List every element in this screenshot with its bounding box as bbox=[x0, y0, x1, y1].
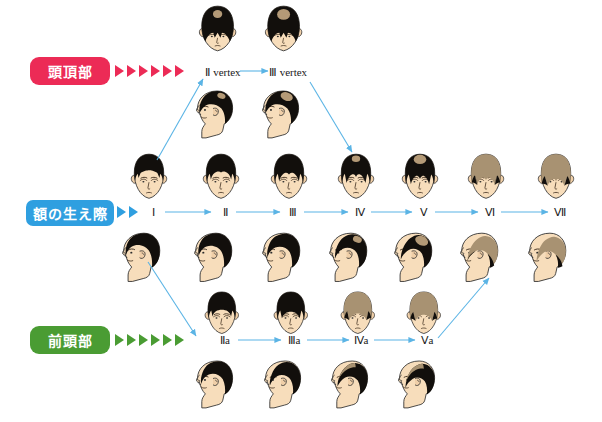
stage-label-Va: Ⅴa bbox=[421, 334, 434, 347]
head-front-VI bbox=[468, 154, 503, 198]
head-side-II bbox=[195, 233, 232, 281]
arrow-branch-I-to-IIa bbox=[148, 262, 196, 336]
stage-label-II: Ⅱ bbox=[223, 206, 228, 219]
head-side-IVa bbox=[332, 361, 368, 408]
stage-label-IVa: Ⅳa bbox=[354, 334, 369, 347]
head-front-II bbox=[203, 154, 238, 198]
stage-label-III: Ⅲ bbox=[289, 206, 297, 219]
chevrons-hairline bbox=[117, 206, 138, 218]
stage-label-V: Ⅴ bbox=[420, 206, 428, 219]
head-front-IIIa bbox=[274, 292, 307, 334]
head-front-V bbox=[402, 154, 437, 198]
head-front-I bbox=[131, 154, 166, 198]
head-side-IIa bbox=[197, 361, 233, 408]
head-side-V bbox=[395, 233, 432, 281]
hairline-row-side-views bbox=[123, 233, 566, 281]
stage-label-VII: Ⅶ bbox=[554, 206, 566, 219]
head-front-Va bbox=[407, 292, 440, 334]
frontal-row-front-views bbox=[205, 292, 440, 334]
chevrons-vertex bbox=[115, 65, 184, 77]
stage-label-IIIa: Ⅲa bbox=[288, 334, 301, 347]
head-front-VII bbox=[538, 154, 573, 198]
frontal-row-side-views bbox=[197, 361, 435, 408]
category-label-frontal: 前頭部 bbox=[30, 326, 110, 354]
stage-label-III-vertex: Ⅲ vertex bbox=[269, 66, 307, 79]
head-side-II-vertex bbox=[197, 91, 233, 138]
head-top-III-vertex bbox=[265, 6, 301, 51]
head-top-II-vertex bbox=[199, 6, 235, 51]
stage-label-II-vertex: Ⅱ vertex bbox=[205, 66, 240, 79]
head-side-VI bbox=[461, 233, 498, 281]
head-front-IV bbox=[338, 154, 373, 198]
hair-loss-classification-diagram: 頭頂部 額の生え際 前頭部 Ⅱ vertex Ⅲ vertex Ⅰ Ⅱ Ⅲ Ⅳ … bbox=[0, 0, 602, 422]
hairline-row-front-views bbox=[131, 154, 573, 198]
head-side-VII bbox=[529, 233, 566, 281]
head-side-III bbox=[263, 233, 300, 281]
arrow-branch-vertexIII-to-IV bbox=[310, 82, 352, 152]
vertex-row-top-views bbox=[199, 6, 301, 51]
arrow-branch-Va-to-VI bbox=[438, 278, 489, 338]
head-side-I bbox=[123, 233, 160, 281]
stage-label-VI: Ⅵ bbox=[485, 206, 495, 219]
stage-label-IV: Ⅳ bbox=[355, 206, 365, 219]
category-label-vertex: 頭頂部 bbox=[30, 57, 110, 85]
head-side-Va bbox=[399, 361, 435, 408]
head-side-IV bbox=[330, 233, 367, 281]
category-label-hairline: 額の生え際 bbox=[26, 200, 114, 226]
head-side-IIIa bbox=[265, 361, 301, 408]
arrow-branch-I-to-vertexII bbox=[157, 79, 203, 160]
stage-label-IIa: Ⅱa bbox=[220, 334, 230, 347]
head-side-III-vertex bbox=[263, 90, 299, 137]
head-front-IIa bbox=[205, 292, 238, 334]
vertex-row-side-views bbox=[197, 90, 299, 137]
head-front-IVa bbox=[341, 292, 374, 334]
stage-label-I: Ⅰ bbox=[152, 206, 155, 219]
chevrons-frontal bbox=[115, 334, 184, 346]
head-front-III bbox=[271, 154, 306, 198]
